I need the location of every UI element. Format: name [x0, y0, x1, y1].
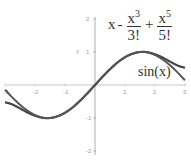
taylor-formula-label: x - x3 3! + x5 5! — [108, 6, 174, 43]
num-x5: x — [158, 10, 166, 26]
x-tick-label: 3 — [183, 89, 187, 95]
num-x3: x — [128, 10, 136, 26]
x-tick-label: 1 — [123, 89, 127, 95]
den-3-factorial: 3! — [128, 27, 141, 43]
exp-3: 3 — [135, 8, 140, 19]
formula-minus: - — [118, 16, 123, 33]
formula-plus: + — [145, 16, 153, 33]
x-tick-label: -1 — [63, 89, 69, 95]
x-tick-label: -2 — [33, 89, 39, 95]
y-tick-label: 2 — [86, 16, 90, 22]
formula-x: x — [108, 16, 116, 33]
fraction-x3: x3 3! — [127, 6, 142, 43]
sin-label: sin(x) — [138, 64, 171, 80]
x-tick-label: 2 — [153, 89, 157, 95]
y-tick-label: -1 — [86, 115, 92, 121]
y-tick-label: 1 — [86, 49, 90, 55]
y-tick-label: -2 — [86, 148, 92, 154]
y-axis-label: y — [76, 48, 79, 54]
den-5-factorial: 5! — [158, 27, 171, 43]
exp-5: 5 — [166, 8, 171, 19]
fraction-x5: x5 5! — [157, 6, 172, 43]
